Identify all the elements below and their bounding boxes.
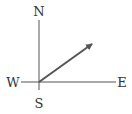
compass-diagram: N S W E <box>0 0 132 114</box>
label-south: S <box>35 96 44 111</box>
vector-arrow <box>39 44 92 82</box>
label-north: N <box>33 4 44 19</box>
label-west: W <box>6 75 20 90</box>
label-east: E <box>117 75 127 90</box>
